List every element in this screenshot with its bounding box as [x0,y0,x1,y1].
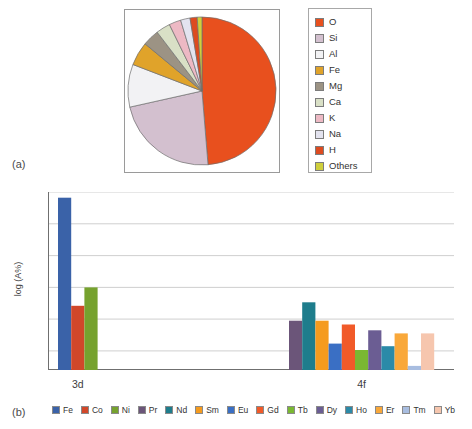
bar-legend-swatch-tb [287,406,295,414]
pie-legend-item-na[interactable]: Na [315,126,371,142]
bar-legend-swatch-fe [52,406,60,414]
bar-legend-swatch-sm [195,406,203,414]
bar-legend-swatch-yb [434,406,442,414]
pie-legend-item-mg[interactable]: Mg [315,78,371,94]
bar-legend-item-dy[interactable]: Dy [316,406,337,415]
bar-legend-item-sm[interactable]: Sm [195,406,219,415]
pie-legend-swatch-others [315,162,324,171]
bar-eu [329,344,342,370]
bar-chart-plot-area [48,192,454,370]
pie-legend-label: Fe [329,65,340,75]
pie-slice-o [202,17,276,165]
bar-legend-label: Er [386,406,395,415]
pie-legend-label: K [329,113,335,123]
bar-legend-item-er[interactable]: Er [375,406,395,415]
pie-legend-item-o[interactable]: O [315,14,371,30]
bar-legend-item-ho[interactable]: Ho [345,406,367,415]
bar-legend-item-gd[interactable]: Gd [256,406,278,415]
pie-legend-item-h[interactable]: H [315,142,371,158]
bar-legend-item-pr[interactable]: Pr [138,406,158,415]
bar-legend-swatch-eu [227,406,235,414]
bar-legend-label: Yb [445,406,455,415]
bar-gd [342,325,355,371]
pie-legend-item-fe[interactable]: Fe [315,62,371,78]
bar-legend-label: Sm [206,406,219,415]
bar-legend-item-nd[interactable]: Nd [165,406,187,415]
pie-legend-item-others[interactable]: Others [315,158,371,174]
bar-legend-item-fe[interactable]: Fe [52,406,73,415]
pie-chart-legend: OSiAlFeMgCaKNaHOthers [308,8,372,173]
panel-b-bar-chart: (b) log (A%) FeCoNiPrNdSmEuGdTbDyHoErTmY… [0,182,472,429]
x-group-label-4f: 4f [357,378,366,390]
bar-pr [289,321,302,370]
bar-tm [408,366,421,370]
bar-legend-swatch-gd [256,406,264,414]
pie-legend-swatch-o [315,18,324,27]
pie-legend-swatch-al [315,50,324,59]
pie-legend-swatch-fe [315,66,324,75]
panel-b-label: (b) [12,406,25,418]
bar-sm [315,321,328,370]
bar-chart-legend: FeCoNiPrNdSmEuGdTbDyHoErTmYb [52,406,472,415]
bar-tb [355,350,368,370]
bar-legend-label: Ni [122,406,130,415]
pie-legend-label: Ca [329,97,341,107]
bar-legend-item-yb[interactable]: Yb [434,406,455,415]
bar-nd [302,302,315,370]
pie-legend-swatch-si [315,34,324,43]
pie-legend-swatch-k [315,114,324,123]
bar-ho [381,346,394,370]
bar-legend-item-tb[interactable]: Tb [287,406,308,415]
bar-legend-item-eu[interactable]: Eu [227,406,248,415]
panel-a-label: (a) [12,158,25,170]
pie-legend-label: O [329,17,336,27]
pie-legend-label: Na [329,129,341,139]
bar-legend-swatch-ho [345,406,353,414]
pie-legend-swatch-mg [315,82,324,91]
bar-legend-label: Eu [238,406,248,415]
pie-legend-label: Al [329,49,337,59]
bar-legend-label: Dy [327,406,337,415]
pie-legend-item-k[interactable]: K [315,110,371,126]
bar-legend-item-tm[interactable]: Tm [402,406,425,415]
pie-legend-swatch-na [315,130,324,139]
bar-legend-swatch-er [375,406,383,414]
bar-legend-label: Nd [176,406,187,415]
bar-legend-label: Fe [63,406,73,415]
bar-legend-label: Gd [267,406,278,415]
pie-legend-swatch-ca [315,98,324,107]
bar-co [71,306,84,370]
bar-legend-label: Tb [298,406,308,415]
bar-legend-label: Ho [356,406,367,415]
bar-legend-item-co[interactable]: Co [81,406,103,415]
pie-legend-label: H [329,145,336,155]
bar-dy [368,330,381,370]
pie-legend-swatch-h [315,146,324,155]
pie-legend-label: Others [329,161,358,171]
bar-legend-swatch-co [81,406,89,414]
pie-legend-item-al[interactable]: Al [315,46,371,62]
bar-legend-swatch-tm [402,406,410,414]
bar-legend-label: Co [92,406,103,415]
pie-legend-label: Si [329,33,337,43]
x-group-label-3d: 3d [72,378,84,390]
pie-legend-item-si[interactable]: Si [315,30,371,46]
bar-chart-svg [48,192,454,370]
bar-legend-label: Tm [413,406,425,415]
panel-a-pie-chart: (a) OSiAlFeMgCaKNaHOthers [0,0,472,182]
bar-er [395,333,408,370]
pie-legend-item-ca[interactable]: Ca [315,94,371,110]
pie-chart-svg [126,11,278,171]
bar-legend-swatch-ni [111,406,119,414]
bar-legend-swatch-nd [165,406,173,414]
bar-legend-label: Pr [149,406,158,415]
bar-fe [58,198,71,370]
y-axis-label: log (A%) [13,249,23,309]
bar-legend-item-ni[interactable]: Ni [111,406,130,415]
bar-yb [421,333,434,370]
pie-legend-label: Mg [329,81,342,91]
bar-ni [84,287,97,370]
bar-legend-swatch-dy [316,406,324,414]
bar-legend-swatch-pr [138,406,146,414]
